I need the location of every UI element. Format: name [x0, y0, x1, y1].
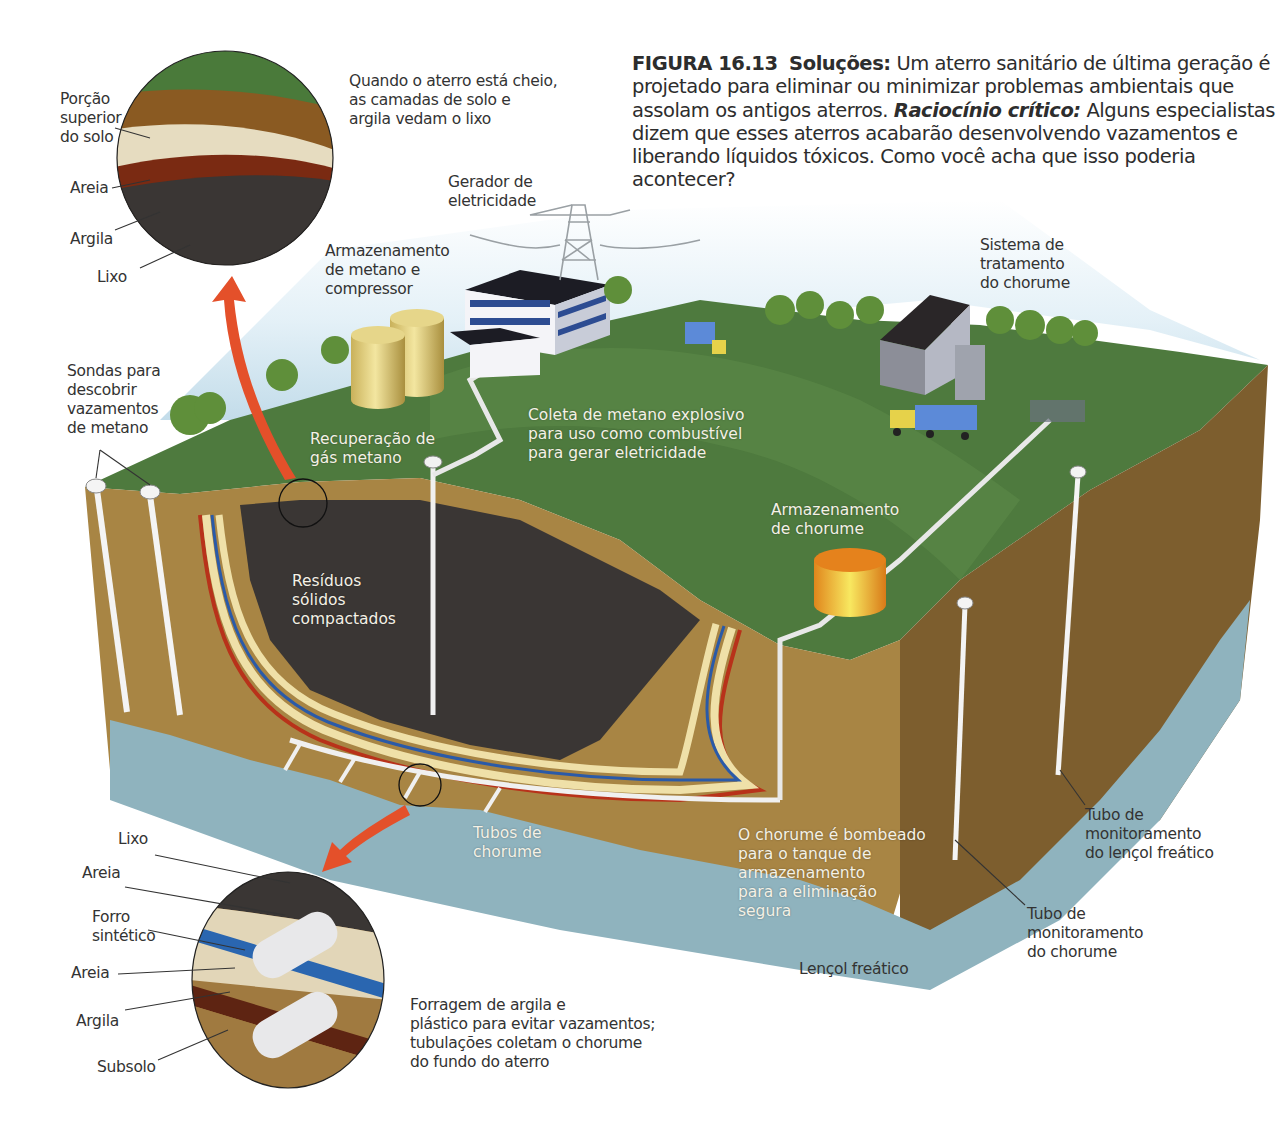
label-argila-top: Argila	[70, 230, 113, 249]
label-gerador: Gerador de eletricidade	[448, 173, 536, 211]
landfill-figure: FIGURA 16.13 Soluções: Um aterro sanitár…	[0, 0, 1288, 1122]
label-sondas: Sondas para descobrir vazamentos de meta…	[67, 362, 160, 438]
label-armazenamento-metano: Armazenamento de metano e compressor	[325, 242, 449, 299]
label-argila-bottom: Argila	[76, 1012, 119, 1031]
label-lixo-bottom: Lixo	[118, 830, 148, 849]
label-areia-bottom-2: Areia	[71, 964, 109, 983]
figure-caption: FIGURA 16.13 Soluções: Um aterro sanitár…	[632, 52, 1288, 192]
label-sistema-tratamento: Sistema de tratamento do chorume	[980, 236, 1070, 293]
label-armazenamento-chorume: Armazenamento de chorume	[771, 501, 899, 539]
label-chorume-bombeado: O chorume é bombeado para o tanque de ar…	[738, 826, 926, 921]
label-subsolo: Subsolo	[97, 1058, 156, 1077]
label-tubo-monitoramento-lencol: Tubo de monitoramento do lençol freático	[1085, 806, 1214, 863]
label-residuos: Resíduos sólidos compactados	[292, 572, 396, 629]
label-areia-bottom-1: Areia	[82, 864, 120, 883]
figure-number: FIGURA 16.13	[632, 52, 778, 75]
top-inset-cross-section	[110, 48, 340, 280]
leachate-treatment-building	[880, 295, 985, 400]
bottom-inset-description: Forragem de argila e plástico para evita…	[410, 996, 655, 1072]
label-forro-sintetico: Forro sintético	[92, 908, 156, 946]
label-porcao-superior: Porção superior do solo	[60, 90, 121, 147]
leachate-storage-tank	[814, 548, 886, 617]
label-tubo-monitoramento-chorume: Tubo de monitoramento do chorume	[1027, 905, 1143, 962]
caption-title: Soluções:	[789, 52, 891, 75]
label-lencol-freatico: Lençol freático	[799, 960, 908, 979]
label-lixo-top: Lixo	[97, 268, 127, 287]
label-tubos-chorume: Tubos de chorume	[473, 824, 542, 862]
label-coleta-metano: Coleta de metano explosivo para uso como…	[528, 406, 745, 463]
top-inset-description: Quando o aterro está cheio, as camadas d…	[349, 72, 557, 129]
critical-thinking-label: Raciocínio crítico:	[894, 99, 1081, 122]
label-areia-top: Areia	[70, 179, 108, 198]
label-recuperacao-gas: Recuperação de gás metano	[310, 430, 435, 468]
